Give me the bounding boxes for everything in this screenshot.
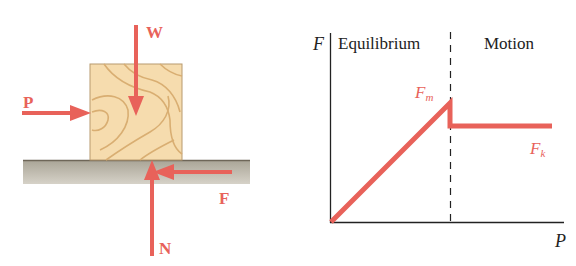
label-fm: Fm <box>415 84 433 103</box>
label-p: P <box>23 94 33 111</box>
y-axis-label: F <box>313 35 324 53</box>
label-f: F <box>219 190 229 207</box>
friction-curve <box>331 103 552 222</box>
label-fk: Fk <box>530 140 545 159</box>
x-axis-label: P <box>555 232 566 250</box>
region-equilibrium: Equilibrium <box>338 35 420 52</box>
label-w: W <box>146 24 163 41</box>
region-motion: Motion <box>484 35 534 52</box>
label-n: N <box>159 240 171 257</box>
normal-arrow-icon <box>144 160 160 256</box>
